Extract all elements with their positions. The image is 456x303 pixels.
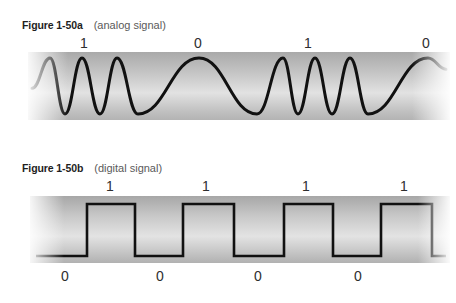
figure-a-caption: (analog signal) [94,19,166,31]
figure-a-number: Figure 1-50a [22,19,83,31]
analog-bit-label: 1 [80,36,88,50]
figure-b-number: Figure 1-50b [22,162,83,174]
digital-band [30,196,450,263]
figure-canvas: Figure 1-50a(analog signal) Figure 1-50b… [0,0,456,303]
figure-b-caption: (digital signal) [94,162,162,174]
figure-a-title: Figure 1-50a(analog signal) [22,17,166,30]
digital-bit-label-low: 0 [354,269,362,283]
analog-bit-label: 0 [422,36,430,50]
analog-left-fade [24,48,68,124]
analog-bit-label: 0 [194,36,202,50]
digital-bit-label-high: 1 [400,179,408,193]
analog-bit-label: 1 [304,36,312,50]
digital-right-fade [418,192,452,267]
signals-diagram [0,0,456,303]
digital-bit-label-high: 1 [106,179,114,193]
digital-left-fade [26,192,64,267]
digital-bit-label-high: 1 [202,179,210,193]
analog-right-cover [451,48,456,124]
digital-bit-label-low: 0 [254,269,262,283]
digital-bit-label-low: 0 [156,269,164,283]
digital-bit-label-high: 1 [302,179,310,193]
digital-right-cover [451,192,456,267]
digital-bit-label-low: 0 [61,269,69,283]
figure-b-title: Figure 1-50b(digital signal) [22,160,162,173]
analog-right-fade [412,48,452,124]
